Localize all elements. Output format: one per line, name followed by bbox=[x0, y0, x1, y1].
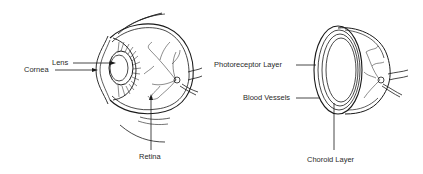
label-cornea: Cornea bbox=[24, 65, 49, 74]
photoreceptor-ring bbox=[318, 30, 360, 110]
label-choroid-layer: Choroid Layer bbox=[307, 155, 355, 164]
label-photoreceptor-layer: Photoreceptor Layer bbox=[214, 60, 282, 69]
label-retina: Retina bbox=[139, 152, 162, 161]
retinal-vessels bbox=[144, 42, 180, 99]
label-blood-vessels: Blood Vessels bbox=[243, 93, 290, 102]
eye-cross-section-figure: Lens Cornea Retina bbox=[24, 13, 202, 161]
lens-arrowhead bbox=[110, 61, 116, 65]
outer-ring bbox=[314, 26, 362, 114]
blood-vessel-ring bbox=[322, 34, 358, 106]
inner-ring bbox=[326, 38, 356, 102]
eye-anatomy-diagram: Lens Cornea Retina Pho bbox=[0, 0, 423, 174]
choroid-vessels bbox=[364, 46, 384, 98]
label-lens: Lens bbox=[52, 58, 69, 67]
retina-layers-figure: Photoreceptor Layer Blood Vessels Choroi… bbox=[214, 26, 408, 164]
cornea-arrowhead bbox=[92, 68, 98, 72]
